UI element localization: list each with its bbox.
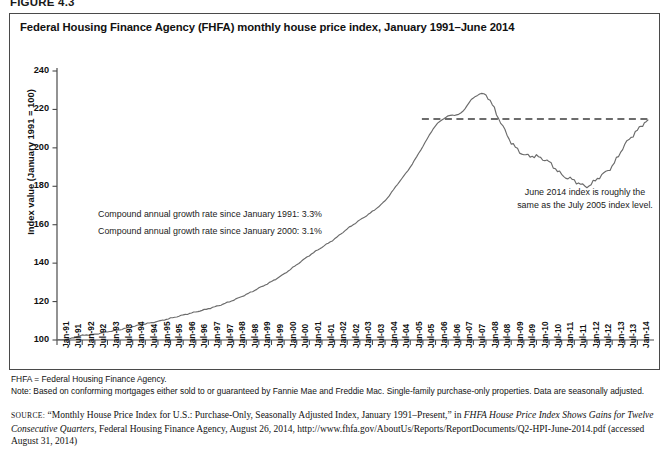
x-tick-label: Jan-92: [86, 321, 96, 348]
note-methodology: Note: Based on conforming mortgages eith…: [11, 386, 661, 398]
x-tick-label: Jan-99: [262, 321, 272, 348]
x-tick-label: Jan-07: [464, 321, 474, 348]
x-tick-label: Jul-92: [98, 324, 108, 348]
annotation-june-2014-line1: June 2014 index is roughly the: [510, 186, 660, 199]
x-tick-label: Jul-08: [502, 324, 512, 348]
x-tick-label: Jul-99: [275, 324, 285, 348]
annotation-june-2014-line2: same as the July 2005 index level.: [510, 199, 660, 212]
x-tick-label: Jan-01: [313, 321, 323, 348]
x-tick-label: Jan-98: [237, 321, 247, 348]
x-tick-label: Jan-10: [540, 321, 550, 348]
x-tick-label: Jan-00: [288, 321, 298, 348]
figure-container: FIGURE 4.3 Federal Housing Finance Agenc…: [0, 0, 670, 454]
x-tick-label: Jul-95: [174, 324, 184, 348]
note-abbreviation: FHFA = Federal Housing Finance Agency.: [11, 374, 661, 386]
y-tick-label: 220: [23, 103, 49, 113]
x-tick-label: Jul-97: [225, 324, 235, 348]
annotation-june-2014: June 2014 index is roughly the same as t…: [510, 186, 660, 211]
x-tick-label: Jul-00: [300, 324, 310, 348]
x-tick-label: Jul-91: [73, 324, 83, 348]
chart-panel: Federal Housing Finance Agency (FHFA) mo…: [9, 13, 660, 370]
x-tick-label: Jan-93: [111, 321, 121, 348]
y-tick-label: 200: [23, 142, 49, 152]
x-tick-label: Jul-07: [477, 324, 487, 348]
y-tick-label: 100: [23, 334, 49, 344]
x-tick-label: Jan-95: [162, 321, 172, 348]
x-tick-label: Jul-94: [149, 324, 159, 348]
x-tick-label: Jul-02: [351, 324, 361, 348]
x-tick-label: Jan-12: [591, 321, 601, 348]
x-tick-label: Jul-01: [326, 324, 336, 348]
x-tick-label: Jan-08: [490, 321, 500, 348]
x-tick-label: Jul-98: [250, 324, 260, 348]
x-tick-label: Jan-91: [61, 321, 71, 348]
x-tick-label: Jul-05: [426, 324, 436, 348]
x-tick-label: Jul-09: [527, 324, 537, 348]
y-tick-label: 180: [23, 180, 49, 190]
x-tick-label: Jul-11: [578, 324, 588, 348]
x-tick-label: Jan-05: [414, 321, 424, 348]
y-axis-title: Index value (January 1991 = 100): [25, 62, 36, 262]
y-tick-label: 160: [23, 219, 49, 229]
x-tick-label: Jul-04: [401, 324, 411, 348]
x-tick-label: Jan-97: [212, 321, 222, 348]
chart-notes: FHFA = Federal Housing Finance Agency. N…: [11, 374, 661, 397]
x-tick-label: Jan-04: [389, 321, 399, 348]
x-tick-label: Jan-03: [363, 321, 373, 348]
source-text-part1: “Monthly House Price Index for U.S.: Pur…: [45, 410, 464, 420]
annotation-growth-1991: Compound annual growth rate since Januar…: [98, 209, 322, 219]
y-tick-label: 240: [23, 65, 49, 75]
x-tick-label: Jul-03: [376, 324, 386, 348]
source-kicker: SOURCE:: [11, 411, 45, 420]
x-tick-label: Jul-13: [628, 324, 638, 348]
figure-number: FIGURE 4.3: [10, 0, 75, 10]
x-tick-label: Jul-10: [553, 324, 563, 348]
source-text-part2: , Federal Housing Finance Agency, August…: [11, 424, 644, 447]
annotation-growth-2000: Compound annual growth rate since Januar…: [98, 226, 322, 236]
x-tick-label: Jan-94: [136, 321, 146, 348]
x-tick-label: Jan-02: [338, 321, 348, 348]
x-tick-label: Jul-96: [199, 324, 209, 348]
y-tick-label: 140: [23, 257, 49, 267]
x-tick-label: Jan-09: [515, 321, 525, 348]
x-tick-label: Jul-06: [452, 324, 462, 348]
x-tick-label: Jan-06: [439, 321, 449, 348]
x-tick-label: Jan-11: [565, 322, 575, 348]
source-note: SOURCE: “Monthly House Price Index for U…: [11, 409, 659, 448]
x-tick-label: Jul-93: [124, 324, 134, 348]
x-tick-label: Jan-13: [616, 321, 626, 348]
x-tick-label: Jan-14: [641, 321, 651, 348]
x-tick-label: Jan-96: [187, 321, 197, 348]
x-tick-label: Jul-12: [603, 324, 613, 348]
y-tick-label: 120: [23, 296, 49, 306]
